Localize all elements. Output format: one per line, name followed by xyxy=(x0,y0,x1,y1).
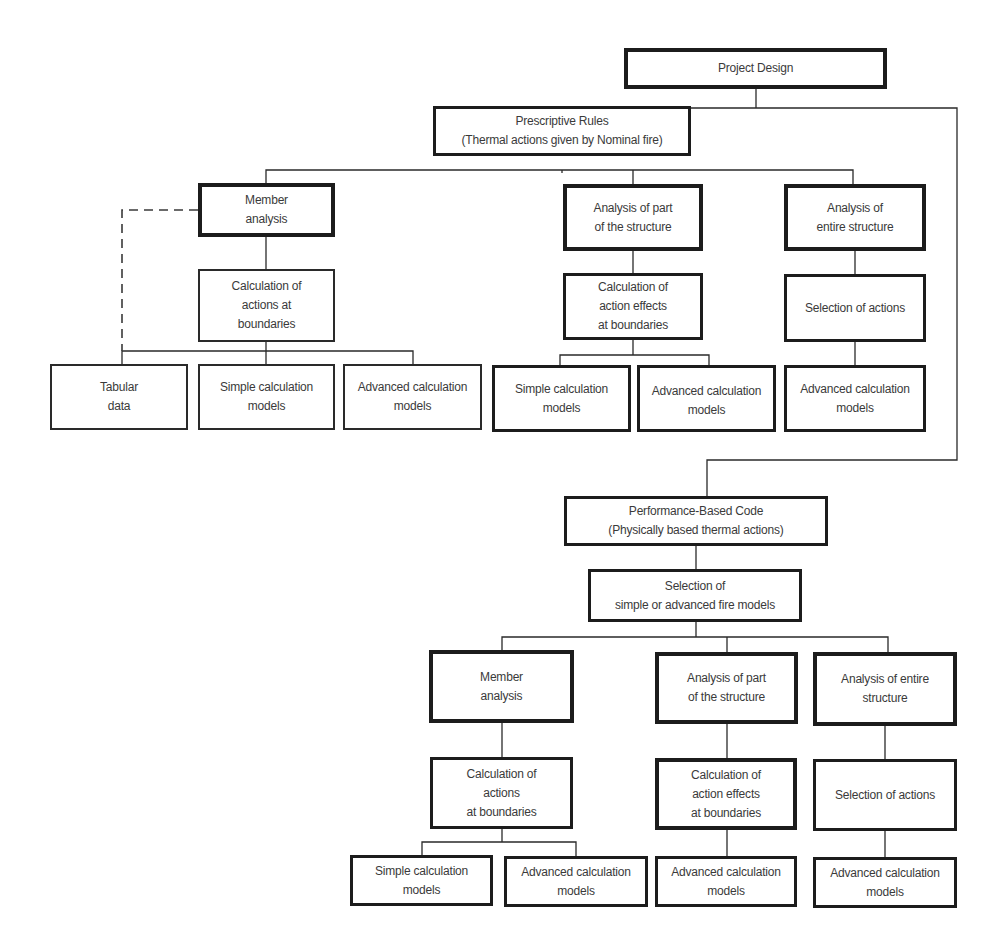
prescriptive-entire-selection-box: Selection of actions xyxy=(784,274,926,342)
advanced-calc-label: Advanced calculation models xyxy=(800,380,909,418)
calc-action-effects-label: Calculation of action effects at boundar… xyxy=(691,766,761,823)
part-analysis-label: Analysis of part of the structure xyxy=(594,199,673,237)
advanced-calc-label: Advanced calculation models xyxy=(671,863,780,901)
simple-calc-label: Simple calculation models xyxy=(375,862,468,900)
prescriptive-part-simple-calc-box: Simple calculation models xyxy=(492,365,631,432)
member-analysis-label: Member analysis xyxy=(480,668,523,706)
prescriptive-part-analysis-box: Analysis of part of the structure xyxy=(563,184,703,251)
fire-design-flowchart: Project Design Prescriptive Rules (Therm… xyxy=(0,0,1001,951)
performance-part-analysis-box: Analysis of part of the structure xyxy=(655,652,798,724)
performance-member-analysis-box: Member analysis xyxy=(429,650,574,723)
calc-action-effects-label: Calculation of action effects at boundar… xyxy=(598,278,668,335)
project-design-label: Project Design xyxy=(718,59,793,78)
prescriptive-member-calc-box: Calculation of actions at boundaries xyxy=(198,269,335,342)
advanced-calc-label: Advanced calculation models xyxy=(830,864,939,902)
performance-entire-advanced-calc-box: Advanced calculation models xyxy=(813,857,957,908)
project-design-box: Project Design xyxy=(624,48,887,89)
advanced-calc-label: Advanced calculation models xyxy=(652,382,761,420)
entire-analysis-label: Analysis of entire structure xyxy=(841,670,929,708)
performance-entire-selection-box: Selection of actions xyxy=(813,759,957,831)
performance-member-advanced-calc-box: Advanced calculation models xyxy=(504,856,648,907)
prescriptive-entire-analysis-box: Analysis of entire structure xyxy=(784,184,926,251)
prescriptive-entire-advanced-calc-box: Advanced calculation models xyxy=(784,365,926,432)
performance-part-calc-box: Calculation of action effects at boundar… xyxy=(655,758,797,830)
prescriptive-part-advanced-calc-box: Advanced calculation models xyxy=(637,365,776,432)
performance-member-simple-calc-box: Simple calculation models xyxy=(350,855,493,906)
calc-actions-label: Calculation of actions at boundaries xyxy=(232,277,302,334)
performance-based-code-label: Performance-Based Code (Physically based… xyxy=(608,502,783,540)
selection-actions-label: Selection of actions xyxy=(805,299,905,318)
calc-actions-label: Calculation of actions at boundaries xyxy=(466,765,536,822)
performance-entire-analysis-box: Analysis of entire structure xyxy=(813,652,957,726)
performance-member-calc-box: Calculation of actions at boundaries xyxy=(430,757,573,829)
performance-based-code-box: Performance-Based Code (Physically based… xyxy=(564,496,828,546)
entire-analysis-label: Analysis of entire structure xyxy=(817,199,894,237)
fire-model-selection-box: Selection of simple or advanced fire mod… xyxy=(588,569,802,622)
advanced-calc-label: Advanced calculation models xyxy=(358,378,467,416)
member-analysis-label: Member analysis xyxy=(245,191,288,229)
simple-calc-label: Simple calculation models xyxy=(515,380,608,418)
advanced-calc-label: Advanced calculation models xyxy=(521,863,630,901)
prescriptive-part-calc-box: Calculation of action effects at boundar… xyxy=(563,273,703,340)
performance-part-advanced-calc-box: Advanced calculation models xyxy=(655,856,797,907)
prescriptive-member-simple-calc-box: Simple calculation models xyxy=(198,364,335,430)
simple-calc-label: Simple calculation models xyxy=(220,378,313,416)
tabular-data-label: Tabular data xyxy=(100,378,138,416)
fire-model-selection-label: Selection of simple or advanced fire mod… xyxy=(615,577,775,615)
prescriptive-rules-label: Prescriptive Rules (Thermal actions give… xyxy=(462,112,663,150)
dashed-connector xyxy=(122,210,198,351)
prescriptive-tabular-data-box: Tabular data xyxy=(50,364,188,430)
prescriptive-member-advanced-calc-box: Advanced calculation models xyxy=(343,364,482,430)
selection-actions-label: Selection of actions xyxy=(835,786,935,805)
prescriptive-rules-box: Prescriptive Rules (Thermal actions give… xyxy=(433,106,691,156)
part-analysis-label: Analysis of part of the structure xyxy=(687,669,766,707)
prescriptive-member-analysis-box: Member analysis xyxy=(198,183,335,237)
